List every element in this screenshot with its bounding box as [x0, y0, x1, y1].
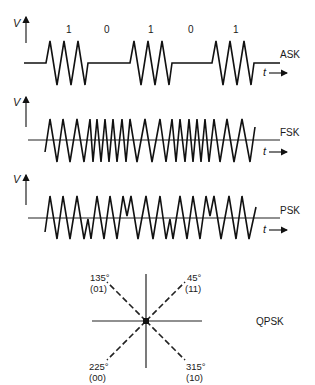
- psk-label: PSK: [280, 205, 300, 216]
- qpsk-angle-label: 45°: [187, 272, 202, 283]
- qpsk-angle-label: 315°: [186, 361, 206, 372]
- modulation-diagram: V 1 0 1 0 1 ASK t V FSK t V PSK t: [0, 0, 315, 385]
- fsk-label: FSK: [280, 127, 300, 138]
- fsk-v-axis-label: V: [13, 96, 22, 108]
- qpsk-code-label: (11): [185, 283, 201, 294]
- ask-bit-label: 0: [188, 24, 194, 35]
- psk-v-axis-label: V: [13, 173, 22, 185]
- ask-panel: V 1 0 1 0 1 ASK t: [13, 17, 300, 85]
- ask-bit-label: 1: [233, 24, 239, 35]
- psk-t-axis-label: t: [263, 223, 267, 235]
- ask-bit-label: 1: [148, 24, 154, 35]
- ask-bit-label: 0: [104, 24, 110, 35]
- qpsk-code-label: (10): [186, 372, 203, 383]
- qpsk-vector-315: [146, 321, 185, 360]
- ask-bit-label: 1: [66, 24, 72, 35]
- ask-t-axis-label: t: [263, 66, 267, 78]
- qpsk-vector-135: [107, 282, 146, 321]
- qpsk-label: QPSK: [256, 316, 284, 327]
- psk-panel: V PSK t: [13, 173, 300, 239]
- qpsk-code-label: (01): [90, 283, 107, 294]
- qpsk-vector-225: [107, 321, 146, 360]
- qpsk-vector-45: [146, 282, 185, 321]
- fsk-t-axis-label: t: [263, 145, 267, 157]
- qpsk-panel: 135° (01) 45° (11) 225° (00) 315° (10) Q…: [89, 272, 284, 383]
- fsk-panel: V FSK t: [13, 96, 300, 162]
- qpsk-angle-label: 135°: [90, 272, 110, 283]
- ask-waveform: [24, 41, 280, 85]
- qpsk-angle-label: 225°: [89, 361, 109, 372]
- qpsk-origin-dot: [143, 318, 149, 324]
- ask-v-axis-label: V: [13, 17, 22, 29]
- ask-label: ASK: [280, 49, 300, 60]
- qpsk-code-label: (00): [89, 372, 106, 383]
